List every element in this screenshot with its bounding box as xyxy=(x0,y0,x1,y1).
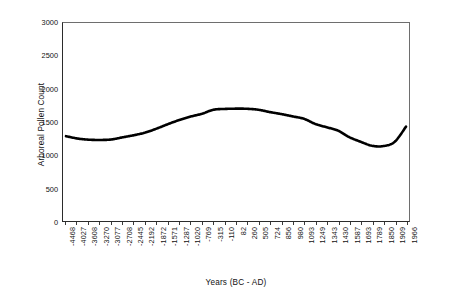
x-tick-label: 1587 xyxy=(353,227,362,243)
x-tick-label: -1020 xyxy=(193,227,202,246)
x-tick-mark xyxy=(373,222,374,225)
x-tick-label: 260 xyxy=(250,227,259,239)
x-tick-label: -1571 xyxy=(170,227,179,246)
x-tick-mark xyxy=(145,222,146,225)
plot-area xyxy=(62,22,410,222)
x-tick-mark xyxy=(88,222,89,225)
x-tick-mark xyxy=(293,222,294,225)
x-tick-label: 980 xyxy=(296,227,305,239)
x-tick-mark xyxy=(156,222,157,225)
pollen-count-line-series xyxy=(63,23,409,221)
x-tick-mark xyxy=(384,222,385,225)
x-tick-label: 1693 xyxy=(364,227,373,243)
x-tick-mark xyxy=(76,222,77,225)
x-tick-mark xyxy=(316,222,317,225)
x-tick-mark xyxy=(350,222,351,225)
x-tick-label: -4468 xyxy=(68,227,77,246)
x-tick-mark xyxy=(190,222,191,225)
x-tick-mark xyxy=(225,222,226,225)
x-tick-mark xyxy=(213,222,214,225)
x-tick-label: 82 xyxy=(239,227,248,235)
x-tick-label: -315 xyxy=(216,227,225,242)
x-tick-mark xyxy=(304,222,305,225)
x-tick-mark xyxy=(111,222,112,225)
x-tick-label: 1430 xyxy=(341,227,350,243)
x-tick-label: 1093 xyxy=(307,227,316,243)
x-tick-mark xyxy=(202,222,203,225)
x-tick-label: 1909 xyxy=(398,227,407,243)
x-tick-mark xyxy=(122,222,123,225)
y-tick-label: 1000 xyxy=(26,151,58,160)
x-axis-tick-labels: -4468-4027-3608-3270-3077-2708-2445-2192… xyxy=(62,222,410,280)
x-tick-label: 1343 xyxy=(330,227,339,243)
x-tick-label: 1966 xyxy=(410,227,419,243)
y-axis-tick-labels: 050010001500200025003000 xyxy=(26,22,58,222)
x-tick-label: -2445 xyxy=(136,227,145,246)
x-axis-title: Years (BC - AD) xyxy=(62,278,410,287)
x-tick-label: 505 xyxy=(261,227,270,239)
x-tick-label: 1850 xyxy=(387,227,396,243)
x-tick-mark xyxy=(270,222,271,225)
x-tick-mark xyxy=(179,222,180,225)
x-tick-label: -769 xyxy=(204,227,213,242)
x-tick-label: -1872 xyxy=(159,227,168,246)
x-tick-mark xyxy=(99,222,100,225)
x-tick-mark xyxy=(282,222,283,225)
x-tick-label: 1249 xyxy=(318,227,327,243)
x-tick-mark xyxy=(168,222,169,225)
x-tick-label: -3270 xyxy=(102,227,111,246)
y-tick-label: 2000 xyxy=(26,84,58,93)
x-tick-label: -3608 xyxy=(90,227,99,246)
x-tick-label: -1287 xyxy=(182,227,191,246)
x-tick-label: -2708 xyxy=(125,227,134,246)
x-tick-mark xyxy=(327,222,328,225)
y-tick-label: 500 xyxy=(26,184,58,193)
y-tick-label: 3000 xyxy=(26,18,58,27)
x-tick-label: -4027 xyxy=(79,227,88,246)
x-tick-mark xyxy=(339,222,340,225)
x-tick-label: -2192 xyxy=(147,227,156,246)
x-tick-label: -110 xyxy=(227,227,236,241)
x-tick-mark xyxy=(236,222,237,225)
figure-caption xyxy=(60,293,450,301)
x-tick-label: -3077 xyxy=(113,227,122,246)
x-tick-mark xyxy=(361,222,362,225)
x-tick-mark xyxy=(396,222,397,225)
y-tick-label: 1500 xyxy=(26,118,58,127)
y-tick-label: 2500 xyxy=(26,51,58,60)
x-tick-mark xyxy=(259,222,260,225)
x-tick-mark xyxy=(407,222,408,225)
x-tick-label: 856 xyxy=(284,227,293,239)
y-tick-label: 0 xyxy=(26,218,58,227)
x-tick-mark xyxy=(133,222,134,225)
x-tick-mark xyxy=(247,222,248,225)
x-tick-label: 724 xyxy=(273,227,282,239)
x-tick-mark xyxy=(65,222,66,225)
chart-figure: Arboreal Pollen Count 050010001500200025… xyxy=(0,0,458,301)
x-tick-label: 1789 xyxy=(375,227,384,243)
